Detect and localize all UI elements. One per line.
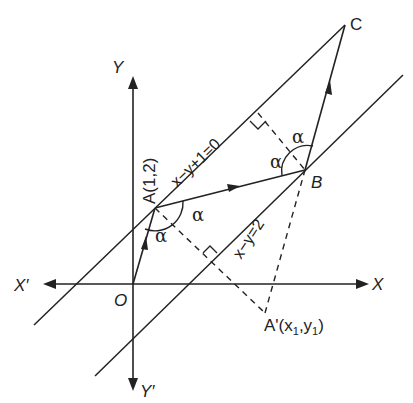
origin-label: O — [114, 291, 127, 310]
x-axis-arrow-icon — [356, 279, 369, 289]
y-axis-label: Y — [112, 58, 125, 77]
angle-label-a-right: α — [192, 204, 204, 225]
geometry-diagram: Y Y′ X X′ O A(1,2) B C A'(x1,y1) x−y+1=0… — [0, 0, 413, 403]
upper-line-equation: x−y+1=0 — [167, 135, 223, 190]
right-angle-mark-upper — [250, 121, 266, 129]
point-a-label: A(1,2) — [140, 158, 159, 204]
angle-label-b-top: α — [292, 126, 304, 147]
x-axis-label: X — [371, 275, 384, 294]
point-b-label: B — [311, 173, 322, 192]
angle-label-b-left: α — [270, 151, 282, 172]
angle-label-a-left: α — [155, 225, 167, 246]
ray-arrow-ab-icon — [227, 184, 240, 192]
x-neg-axis-arrow-icon — [43, 279, 56, 289]
x-axis — [43, 279, 369, 289]
y-axis-arrow-icon — [128, 76, 138, 89]
point-c-label: C — [350, 15, 362, 34]
y-neg-axis-label: Y′ — [140, 382, 155, 401]
right-angle-mark-lower — [203, 246, 217, 253]
x-neg-axis-label: X′ — [13, 276, 29, 295]
point-a-prime-label: A'(x1,y1) — [264, 316, 324, 337]
construction-lines — [155, 113, 305, 313]
y-neg-axis-arrow-icon — [128, 378, 138, 391]
